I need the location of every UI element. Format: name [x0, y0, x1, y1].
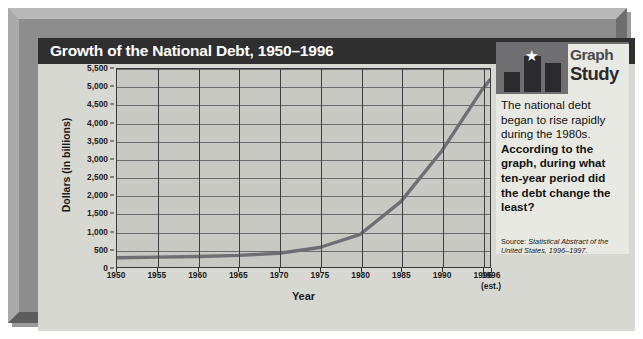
y-tick-mark	[110, 158, 114, 159]
gridline-horizontal	[117, 251, 490, 252]
x-tick-mark	[157, 268, 158, 272]
question-text: The national debt began to rise rapidly …	[501, 98, 624, 215]
gridline-horizontal	[117, 69, 490, 70]
x-tick-mark	[320, 268, 321, 272]
x-tick-mark	[442, 268, 443, 272]
y-tick-label: 2,000	[87, 190, 108, 200]
y-tick-mark	[110, 104, 114, 105]
question-intro: The national debt began to rise rapidly …	[501, 98, 605, 140]
y-tick-label: 5,000	[87, 81, 108, 91]
x-tick-mark	[491, 268, 492, 272]
y-tick-mark	[110, 86, 114, 87]
x-tick-mark	[198, 268, 199, 272]
gridline-vertical	[402, 69, 403, 267]
gridline-vertical	[443, 69, 444, 267]
gridline-horizontal	[117, 105, 490, 106]
y-tick-mark	[110, 140, 114, 141]
gridline-vertical	[239, 69, 240, 267]
debt-line-series	[117, 69, 490, 267]
gridline-horizontal	[117, 214, 490, 215]
gridline-vertical	[199, 69, 200, 267]
gridline-horizontal	[117, 178, 490, 179]
gridline-vertical	[362, 69, 363, 267]
y-tick-label: 3,500	[87, 136, 108, 146]
beveled-frame: Growth of the National Debt, 1950–1996 D…	[8, 8, 627, 323]
logo-bar-chart-icon: ★	[502, 42, 566, 94]
y-axis-ticks: 5,5005,0004,5004,0003,5003,0002,5002,000…	[56, 64, 114, 294]
y-tick-label: 1,000	[87, 227, 108, 237]
gridline-vertical	[484, 69, 485, 267]
y-tick-mark	[110, 68, 114, 69]
x-tick-mark	[361, 268, 362, 272]
gridline-vertical	[280, 69, 281, 267]
x-tick-mark	[401, 268, 402, 272]
y-tick-mark	[110, 177, 114, 178]
y-tick-label: 3,000	[87, 154, 108, 164]
y-tick-label: 1,500	[87, 208, 108, 218]
gridline-horizontal	[117, 233, 490, 234]
x-tick-mark	[279, 268, 280, 272]
graph-study-logo: ★ Graph Study	[496, 42, 629, 94]
y-tick-label: 4,000	[87, 118, 108, 128]
y-tick-mark	[110, 213, 114, 214]
logo-word-graph: Graph	[570, 46, 613, 64]
y-tick-label: 500	[94, 245, 108, 255]
y-tick-label: 5,500	[87, 63, 108, 73]
gridline-vertical	[321, 69, 322, 267]
y-tick-mark	[110, 268, 114, 269]
gridline-horizontal	[117, 142, 490, 143]
logo-wordmark: Graph Study	[568, 44, 629, 94]
y-tick-mark	[110, 122, 114, 123]
y-tick-mark	[110, 249, 114, 250]
question-prompt: According to the graph, during what ten-…	[501, 142, 611, 213]
x-tick-mark	[116, 268, 117, 272]
gridline-horizontal	[117, 196, 490, 197]
y-tick-label: 4,500	[87, 99, 108, 109]
gridline-horizontal	[117, 87, 490, 88]
source-citation: Source: Statistical Abstract of the Unit…	[501, 238, 627, 255]
plot-area	[116, 68, 491, 268]
gridline-horizontal	[117, 160, 490, 161]
y-tick-mark	[110, 195, 114, 196]
y-tick-mark	[110, 231, 114, 232]
graph-study-panel: ★ Graph Study The national debt began to…	[496, 42, 629, 301]
gridline-horizontal	[117, 124, 490, 125]
star-icon: ★	[525, 48, 538, 63]
y-tick-label: 2,500	[87, 172, 108, 182]
gridline-vertical	[158, 69, 159, 267]
x-tick-mark	[238, 268, 239, 272]
logo-word-study: Study	[570, 63, 619, 85]
x-axis-label: Year	[116, 290, 491, 302]
page-title: Growth of the National Debt, 1950–1996	[50, 42, 334, 60]
graph-card: Growth of the National Debt, 1950–1996 D…	[38, 38, 635, 331]
panel-body: The national debt began to rise rapidly …	[496, 94, 629, 254]
